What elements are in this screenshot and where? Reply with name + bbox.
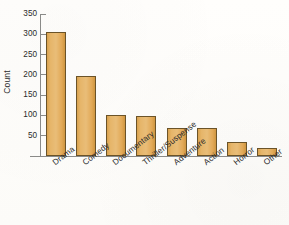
plot-area — [41, 14, 282, 156]
y-tick-label: 250 — [23, 50, 37, 60]
y-tick-label: 50 — [28, 131, 37, 141]
bar-chart-figure: Count 50100150200250300350 DramaComedyDo… — [0, 0, 289, 225]
y-axis-title: Count — [2, 52, 12, 112]
y-tick: 50 — [0, 131, 46, 141]
y-tick-label: 100 — [23, 110, 37, 120]
y-tick-label: 150 — [23, 90, 37, 100]
y-tick: 300 — [0, 29, 46, 39]
bar-drama — [46, 32, 66, 156]
y-tick: 250 — [0, 50, 46, 60]
y-tick: 350 — [0, 9, 46, 19]
y-tick: 200 — [0, 70, 46, 80]
y-tick: 150 — [0, 90, 46, 100]
y-tick-label: 350 — [23, 9, 37, 19]
bar-comedy — [76, 76, 96, 156]
y-tick-label: 200 — [23, 70, 37, 80]
y-tick-label: 300 — [23, 29, 37, 39]
y-tick: 100 — [0, 110, 46, 120]
